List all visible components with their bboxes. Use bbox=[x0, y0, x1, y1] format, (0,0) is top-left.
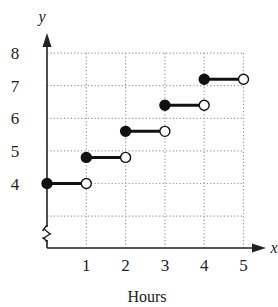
y-axis-arrow-icon bbox=[43, 33, 52, 47]
step-segment bbox=[121, 126, 170, 136]
open-endpoint-icon bbox=[239, 74, 249, 84]
y-tick-label: 8 bbox=[11, 44, 20, 63]
axes bbox=[43, 33, 267, 253]
open-endpoint-icon bbox=[121, 152, 131, 162]
x-tick-label: 1 bbox=[82, 256, 91, 275]
closed-endpoint-icon bbox=[81, 152, 91, 162]
x-axis-title: Hours bbox=[127, 288, 166, 305]
x-axis-arrow-icon bbox=[252, 244, 266, 253]
closed-endpoint-icon bbox=[121, 126, 131, 136]
y-tick-label: 6 bbox=[11, 109, 20, 128]
grid-lines bbox=[47, 53, 244, 248]
y-axis-letter: y bbox=[36, 8, 46, 26]
y-tick-label: 4 bbox=[11, 175, 20, 194]
x-tick-label: 5 bbox=[239, 256, 248, 275]
step-segment bbox=[160, 100, 209, 110]
step-segment bbox=[42, 179, 91, 189]
x-tick-label: 2 bbox=[121, 256, 130, 275]
closed-endpoint-icon bbox=[42, 179, 52, 189]
closed-endpoint-icon bbox=[199, 74, 209, 84]
x-axis-letter: x bbox=[269, 239, 277, 256]
open-endpoint-icon bbox=[160, 126, 170, 136]
y-tick-label: 7 bbox=[11, 77, 20, 96]
x-tick-labels: 12345 bbox=[82, 256, 248, 275]
step-segment bbox=[81, 152, 130, 162]
open-endpoint-icon bbox=[81, 179, 91, 189]
closed-endpoint-icon bbox=[160, 100, 170, 110]
y-tick-label: 5 bbox=[11, 142, 20, 161]
x-tick-label: 4 bbox=[200, 256, 209, 275]
open-endpoint-icon bbox=[199, 100, 209, 110]
y-tick-labels: 45678 bbox=[11, 44, 20, 193]
step-function-chart: y x Hours 12345 45678 bbox=[0, 0, 278, 307]
step-segment bbox=[199, 74, 248, 84]
step-segments bbox=[42, 74, 249, 188]
x-tick-label: 3 bbox=[161, 256, 170, 275]
